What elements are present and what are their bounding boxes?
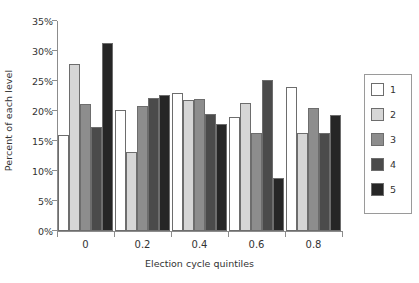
- bar: [58, 135, 69, 231]
- bar: [251, 133, 262, 231]
- bar: [91, 127, 102, 231]
- bar: [102, 43, 113, 231]
- y-tick-label: 25%: [32, 75, 53, 86]
- bar: [297, 133, 308, 231]
- y-tick-label: 15%: [32, 135, 53, 146]
- legend-label: 2: [390, 109, 396, 120]
- bar: [308, 108, 319, 231]
- bar: [115, 110, 126, 231]
- y-tick-label: 10%: [32, 165, 53, 176]
- bar: [80, 104, 91, 231]
- legend-swatch: [371, 183, 384, 196]
- bar: [330, 115, 341, 231]
- x-axis-line: [57, 231, 342, 232]
- bar-chart: Percent of each level 0%5%10%15%20%25%30…: [0, 0, 419, 283]
- y-axis-title: Percent of each level: [0, 0, 18, 240]
- x-tick-label: 0.4: [192, 239, 208, 250]
- x-tick-label: 0.8: [306, 239, 322, 250]
- bar: [194, 99, 205, 231]
- legend-label: 1: [390, 84, 396, 95]
- x-tick-mark: [114, 231, 115, 237]
- x-tick-mark: [171, 231, 172, 237]
- legend-item[interactable]: 3: [371, 133, 396, 146]
- legend-swatch: [371, 83, 384, 96]
- y-tick-label: 5%: [38, 195, 53, 206]
- bar: [262, 80, 273, 231]
- bar: [126, 152, 137, 231]
- y-tick-label: 35%: [32, 15, 53, 26]
- y-tick-label: 20%: [32, 105, 53, 116]
- x-tick-mark: [285, 231, 286, 237]
- x-tick-mark: [342, 231, 343, 237]
- legend-label: 4: [390, 159, 396, 170]
- bar: [205, 114, 216, 231]
- x-axis-title-label: Election cycle quintiles: [145, 258, 254, 269]
- bar: [273, 178, 284, 231]
- bar: [286, 87, 297, 231]
- bar-group: [114, 21, 171, 231]
- legend-item[interactable]: 1: [371, 83, 396, 96]
- legend: 12345: [364, 74, 412, 214]
- bar: [183, 100, 194, 231]
- x-axis-title: Election cycle quintiles: [57, 258, 342, 269]
- plot-area: 0%5%10%15%20%25%30%35% 00.20.40.60.8: [57, 21, 342, 231]
- bar: [159, 95, 170, 231]
- bar: [216, 124, 227, 231]
- bar: [137, 106, 148, 231]
- legend-item[interactable]: 4: [371, 158, 396, 171]
- bar: [148, 98, 159, 231]
- y-axis-title-label: Percent of each level: [4, 69, 15, 171]
- legend-swatch: [371, 108, 384, 121]
- legend-label: 3: [390, 134, 396, 145]
- bar-group: [285, 21, 342, 231]
- legend-item[interactable]: 5: [371, 183, 396, 196]
- bar: [69, 64, 80, 231]
- legend-swatch: [371, 133, 384, 146]
- x-tick-mark: [228, 231, 229, 237]
- legend-label: 5: [390, 184, 396, 195]
- x-tick-label: 0: [82, 239, 88, 250]
- bar-group: [57, 21, 114, 231]
- bar: [319, 133, 330, 231]
- y-tick-label: 0%: [38, 225, 53, 236]
- bar-group: [228, 21, 285, 231]
- x-tick-mark: [57, 231, 58, 237]
- legend-swatch: [371, 158, 384, 171]
- legend-item[interactable]: 2: [371, 108, 396, 121]
- y-tick-label: 30%: [32, 45, 53, 56]
- bar: [240, 103, 251, 231]
- bar-group: [171, 21, 228, 231]
- x-tick-label: 0.2: [135, 239, 151, 250]
- x-tick-label: 0.6: [249, 239, 265, 250]
- bar: [229, 117, 240, 231]
- bar: [172, 93, 183, 231]
